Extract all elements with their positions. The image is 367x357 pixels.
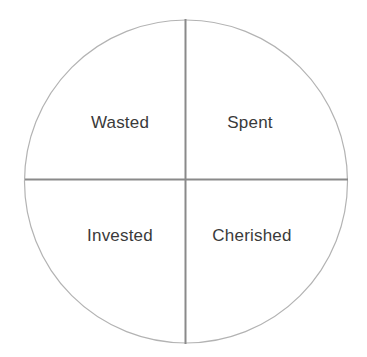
quadrant-label-top-right: Spent — [227, 114, 272, 131]
quadrant-label-bottom-left: Invested — [87, 227, 153, 244]
quadrant-diagram: Wasted Spent Invested Cherished — [0, 0, 367, 357]
quadrant-label-top-left: Wasted — [91, 114, 149, 131]
quadrant-label-bottom-right: Cherished — [212, 227, 291, 244]
quadrant-diagram-graphic — [0, 0, 367, 357]
